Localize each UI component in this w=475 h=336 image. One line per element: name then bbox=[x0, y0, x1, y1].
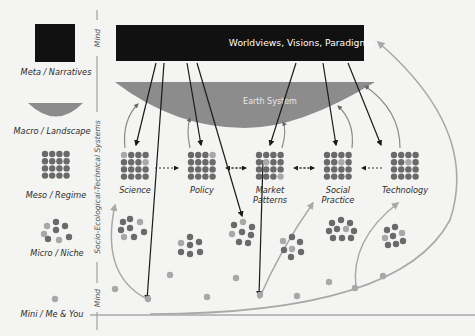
niche-clusters bbox=[118, 216, 406, 260]
level-label-micro: Micro / Niche bbox=[30, 248, 83, 258]
regime-label-policy: Policy bbox=[190, 185, 214, 195]
niche-arrows bbox=[111, 203, 398, 299]
regime-grid bbox=[324, 152, 352, 180]
level-label-meta: Meta / Narratives bbox=[21, 67, 93, 77]
regime-label-science: Science bbox=[119, 185, 151, 195]
worldviews-label: Worldviews, Visions, Paradigms bbox=[229, 37, 373, 48]
macro-legend-halfdisc bbox=[28, 103, 83, 117]
level-label-macro: Macro / Landscape bbox=[14, 126, 91, 136]
regime-grid bbox=[256, 152, 284, 180]
mini-dots bbox=[112, 272, 386, 302]
meso-legend-grid bbox=[42, 151, 70, 179]
regime-label-social-2: Practice bbox=[322, 195, 355, 205]
regime-label-market: Market bbox=[256, 185, 285, 195]
regime-grid bbox=[121, 152, 149, 180]
axis-label-mind-bottom: Mind bbox=[93, 289, 102, 307]
micro-legend-cluster bbox=[41, 219, 72, 243]
regime-label-technology: Technology bbox=[382, 185, 428, 195]
regime-label-market-2: Patterns bbox=[253, 195, 288, 205]
mini-legend-dot bbox=[52, 296, 58, 302]
diagram-canvas: Meta / Narratives Macro / Landscape Meso… bbox=[0, 0, 475, 336]
regime-grid bbox=[391, 152, 419, 180]
level-label-mini: Mini / Me & You bbox=[21, 309, 84, 319]
axis-label-mind-top: Mind bbox=[93, 29, 102, 47]
regime-grid bbox=[188, 152, 216, 180]
earth-system-label: Earth System bbox=[243, 97, 297, 106]
regime-label-social: Social bbox=[326, 185, 351, 195]
level-label-meso: Meso / Regime bbox=[26, 190, 87, 200]
meta-legend-square bbox=[35, 24, 75, 62]
axis-label-systems: Socio-Ecological-Technical Systems bbox=[93, 120, 102, 254]
